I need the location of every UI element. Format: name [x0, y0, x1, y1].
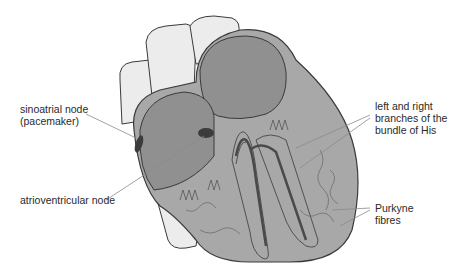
label-sinoatrial-node: sinoatrial node (pacemaker)	[20, 103, 88, 127]
label-line: Purkyne	[375, 202, 414, 214]
label-bundle-of-his: left and right branches of the bundle of…	[375, 100, 447, 136]
atrioventricular-node	[198, 128, 214, 138]
label-line: fibres	[375, 214, 414, 226]
left-atrium	[200, 36, 286, 119]
label-line: (pacemaker)	[20, 115, 88, 127]
label-line: sinoatrial node	[20, 103, 88, 115]
label-line: branches of the	[375, 112, 447, 124]
label-purkyne-fibres: Purkyne fibres	[375, 202, 414, 226]
label-line: atrioventricular node	[20, 194, 115, 206]
heart-illustration	[0, 0, 462, 272]
label-line: left and right	[375, 100, 447, 112]
label-atrioventricular-node: atrioventricular node	[20, 194, 115, 206]
heart-conduction-diagram: sinoatrial node (pacemaker) atrioventric…	[0, 0, 462, 272]
label-line: bundle of His	[375, 124, 447, 136]
